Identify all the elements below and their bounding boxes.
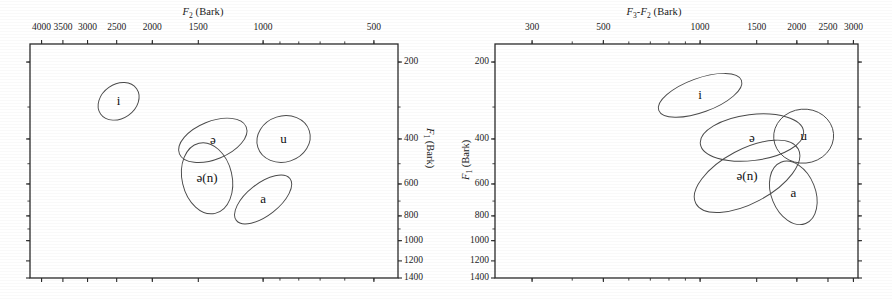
x-tick-label: 300 (525, 22, 539, 32)
y-tick-label: 1200 (404, 255, 423, 265)
plot-area-left (0, 0, 446, 299)
vowel-label-u: u (800, 128, 807, 144)
x-tick-label: 1000 (691, 22, 710, 32)
vowel-label-a: a (260, 191, 266, 207)
y-tick-label: 600 (446, 178, 489, 188)
plot-frame (495, 44, 858, 278)
y-tick-label: 400 (404, 133, 418, 143)
vowel-label-i: i (117, 93, 121, 109)
y-tick-label: 1000 (446, 235, 489, 245)
x-tick-label: 1500 (747, 22, 766, 32)
x-tick-label: 1500 (189, 22, 208, 32)
y-tick-label: 1400 (446, 272, 489, 282)
vowel-label-en: ə(n) (197, 170, 218, 186)
vowel-label-e: ə (749, 130, 755, 146)
vowel-label-a: a (790, 185, 796, 201)
vowel-label-e: ə (210, 132, 216, 148)
y-tick-label: 1200 (446, 255, 489, 265)
x-tick-label: 1000 (254, 22, 273, 32)
x-tick-label: 2000 (787, 22, 806, 32)
y-tick-label: 800 (404, 210, 418, 220)
x-tick-label: 2500 (107, 22, 126, 32)
y-tick-label: 600 (404, 178, 418, 188)
chart-panel-right: F3-F2 (Bark) F1 (Bark) 30050010001500200… (446, 0, 892, 299)
vowel-label-i: i (698, 87, 702, 103)
y-tick-label: 400 (446, 133, 489, 143)
x-tick-label: 3000 (844, 22, 863, 32)
x-tick-label: 500 (367, 22, 381, 32)
y-tick-label: 200 (446, 56, 489, 66)
y-tick-label: 1400 (404, 272, 423, 282)
x-tick-label: 4000 (32, 22, 51, 32)
vowel-label-u: u (280, 131, 287, 147)
x-tick-label: 2500 (818, 22, 837, 32)
y-tick-label: 1000 (404, 235, 423, 245)
x-tick-label: 500 (596, 22, 610, 32)
vowel-label-en: ə(n) (737, 168, 758, 184)
plot-area-right (446, 0, 892, 299)
y-tick-label: 200 (404, 56, 418, 66)
x-tick-label: 3500 (53, 22, 72, 32)
chart-panel-left: F2 (Bark) F1 (Bark) 40003500300025002000… (0, 0, 446, 299)
x-tick-label: 3000 (78, 22, 97, 32)
y-tick-label: 800 (446, 210, 489, 220)
x-tick-label: 2000 (143, 22, 162, 32)
plot-frame (30, 44, 398, 278)
